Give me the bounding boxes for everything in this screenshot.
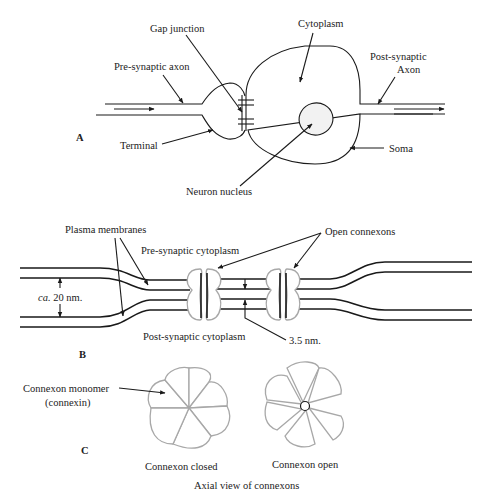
label-plasma-membranes: Plasma membranes — [65, 224, 146, 235]
connexon-pair-1 — [187, 269, 220, 320]
pre-synaptic-axon-bottom — [96, 115, 245, 139]
label-connexon-open: Connexon open — [272, 459, 339, 470]
label-soma: Soma — [389, 143, 413, 154]
label-cytoplasm: Cytoplasm — [298, 18, 344, 29]
label-connexon-monomer: Connexon monomer — [23, 383, 110, 394]
panel-a: Gap junction Cytoplasm Pre-synaptic axon… — [76, 18, 445, 197]
label-3-5nm: 3.5 nm. — [289, 335, 321, 346]
label-ca-20nm: ca. 20 nm. — [38, 292, 82, 303]
label-gap-junction: Gap junction — [150, 23, 205, 34]
connexon-pair-2 — [266, 269, 299, 320]
panel-b: Plasma membranes Open connexons Pre-syna… — [20, 224, 472, 360]
label-connexon-closed: Connexon closed — [145, 461, 218, 472]
connexon-open — [265, 362, 343, 447]
label-post-synaptic-cytoplasm: Post-synaptic cytoplasm — [143, 331, 245, 342]
panel-c: Connexon monomer (connexin) C Connexon c… — [23, 362, 343, 491]
panel-label-c: C — [81, 445, 89, 456]
panel-label-b: B — [79, 349, 86, 360]
membrane-post-outer-left — [20, 310, 190, 327]
label-open-connexons: Open connexons — [325, 226, 395, 237]
pre-synaptic-axon-top — [105, 83, 245, 104]
label-pre-synaptic-cytoplasm: Pre-synaptic cytoplasm — [141, 245, 239, 256]
label-axial-view: Axial view of connexons — [194, 480, 299, 491]
label-neuron-nucleus: Neuron nucleus — [186, 186, 252, 197]
label-post-synaptic-1: Post-synaptic — [370, 51, 427, 62]
label-terminal: Terminal — [120, 140, 158, 151]
panel-label-a: A — [76, 132, 84, 143]
gap-junction-figure: Gap junction Cytoplasm Pre-synaptic axon… — [0, 0, 490, 502]
connexon-pore — [301, 402, 310, 411]
label-post-synaptic-2: Axon — [397, 64, 421, 75]
label-pre-synaptic-axon: Pre-synaptic axon — [114, 61, 190, 72]
connexon-closed — [119, 368, 230, 449]
label-connexin: (connexin) — [45, 397, 91, 409]
